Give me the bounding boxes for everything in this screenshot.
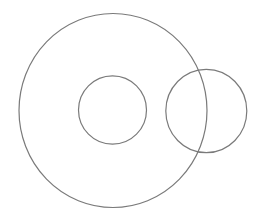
outer-circle (19, 14, 207, 208)
diagram-canvas (0, 0, 263, 218)
right-circle (166, 69, 247, 152)
inner-circle (79, 76, 147, 144)
